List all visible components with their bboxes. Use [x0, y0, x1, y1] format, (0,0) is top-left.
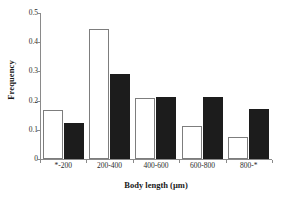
- x-axis-tick-label: 200-400: [97, 162, 122, 170]
- bar-open: [43, 110, 63, 159]
- bar-filled: [110, 74, 130, 159]
- bar-open: [89, 29, 109, 159]
- x-axis-tick-mark: [272, 160, 273, 163]
- x-axis-title: Body length (µm): [40, 180, 272, 190]
- bar-group: [133, 13, 179, 159]
- x-axis-tick-label: 400-600: [144, 162, 169, 170]
- bar-open: [182, 126, 202, 159]
- bar-filled: [64, 123, 84, 160]
- bar-group: [40, 13, 86, 159]
- y-axis-tick-labels: 00.10.20.30.40.5: [18, 13, 38, 159]
- bar-filled: [203, 97, 223, 159]
- x-axis-line: [40, 159, 272, 160]
- bar-chart: Frequency 00.10.20.30.40.5 *-200200-4004…: [0, 0, 285, 198]
- y-axis-title-text: Frequency: [6, 60, 16, 99]
- x-axis-tick-label: 600-800: [190, 162, 215, 170]
- plot-area: [40, 13, 272, 159]
- bar-filled: [156, 97, 176, 159]
- bar-group: [86, 13, 132, 159]
- x-axis-tick-labels: *-200200-400400-600600-800800-*: [40, 162, 272, 176]
- bar-filled: [249, 109, 269, 159]
- bar-open: [135, 98, 155, 159]
- x-axis-tick-label: *-200: [54, 162, 72, 170]
- x-axis-tick-label: 800-*: [240, 162, 258, 170]
- bar-group: [226, 13, 272, 159]
- bar-open: [228, 137, 248, 159]
- bar-group: [179, 13, 225, 159]
